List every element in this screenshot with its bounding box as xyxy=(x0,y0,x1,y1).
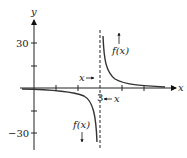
curve-right-branch xyxy=(103,36,165,87)
x-left-label: x xyxy=(79,72,85,83)
tick-label-30: 30 xyxy=(16,38,29,49)
x-axis-label: x xyxy=(178,82,184,93)
fx-upper-label: f(x) xyxy=(111,45,129,56)
curve-left-branch xyxy=(22,89,97,142)
tick-label-neg30: −30 xyxy=(8,128,29,139)
asymptote-label: 3 xyxy=(97,92,103,103)
fx-lower-label: f(x) xyxy=(72,119,90,130)
x-right-label: x xyxy=(114,93,120,104)
rational-function-graph: y x 30 −30 3 f(x) x x f(x) xyxy=(0,0,187,158)
y-axis-label: y xyxy=(30,6,37,17)
